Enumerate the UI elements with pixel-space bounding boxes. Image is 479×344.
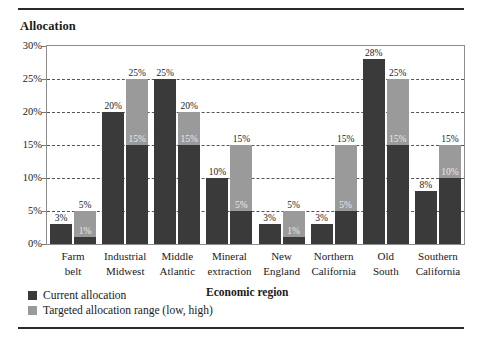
bar-value-label-current: 3% — [307, 213, 337, 223]
x-axis-tick-label-line: Southern — [404, 249, 472, 264]
bar-target-low[interactable] — [439, 178, 461, 244]
target-swatch-icon — [28, 306, 37, 315]
bar-group: 25%20%15% — [154, 46, 200, 244]
bar-value-label-target-high: 15% — [435, 134, 465, 144]
bar-value-label-target-low: 1% — [70, 226, 100, 236]
legend-item[interactable]: Targeted allocation range (low, high) — [28, 303, 213, 318]
legend-item[interactable]: Current allocation — [28, 288, 213, 303]
x-axis-title: Economic region — [206, 286, 289, 298]
bar-value-label-target-low: 15% — [383, 134, 413, 144]
bar-target-low[interactable] — [126, 145, 148, 244]
bar-group: 8%15%10% — [415, 46, 461, 244]
bar-value-label-target-high: 25% — [383, 68, 413, 78]
bar-value-label-target-low: 15% — [174, 134, 204, 144]
bar-value-label-current: 25% — [150, 68, 180, 78]
current-swatch-icon — [28, 291, 37, 300]
y-axis-tick-mark — [41, 211, 46, 212]
y-axis-tick-label: 30% — [8, 41, 42, 51]
bar-target-low[interactable] — [335, 211, 357, 244]
bar-value-label-current: 3% — [255, 213, 285, 223]
bar-target-low[interactable] — [387, 145, 409, 244]
bar-current-allocation[interactable] — [102, 112, 124, 244]
bar-group: 3%15%5% — [311, 46, 357, 244]
bar-series-group: 3%5%1%20%25%15%25%20%15%10%15%5%3%5%1%3%… — [47, 46, 464, 244]
bar-current-allocation[interactable] — [415, 191, 437, 244]
bar-current-allocation[interactable] — [363, 59, 385, 244]
bar-current-allocation[interactable] — [206, 178, 228, 244]
bar-value-label-target-low: 5% — [331, 200, 361, 210]
legend-item-label: Current allocation — [43, 289, 126, 302]
bar-value-label-current: 8% — [411, 180, 441, 190]
y-axis-tick-label: 20% — [8, 107, 42, 117]
legend: Current allocationTargeted allocation ra… — [28, 288, 213, 318]
y-axis-tick-label: 5% — [8, 206, 42, 216]
bar-value-label-target-low: 1% — [279, 226, 309, 236]
bar-current-allocation[interactable] — [311, 224, 333, 244]
x-axis-tick-label-line: California — [404, 264, 472, 279]
bar-current-allocation[interactable] — [154, 79, 176, 244]
bar-current-allocation[interactable] — [259, 224, 281, 244]
x-axis-tick-labels: FarmbeltIndustrialMidwestMiddleAtlanticM… — [47, 249, 464, 283]
bar-target-low[interactable] — [178, 145, 200, 244]
top-rule — [18, 8, 464, 10]
bar-value-label-current: 28% — [359, 48, 389, 58]
bar-current-allocation[interactable] — [50, 224, 72, 244]
bar-value-label-target-high: 5% — [279, 200, 309, 210]
bar-target-low[interactable] — [74, 237, 96, 244]
bar-value-label-target-high: 15% — [331, 134, 361, 144]
bar-target-low[interactable] — [230, 211, 252, 244]
bar-value-label-current: 20% — [98, 101, 128, 111]
y-axis-tick-label: 0% — [8, 239, 42, 249]
y-axis-tick-mark — [41, 79, 46, 80]
bar-value-label-target-high: 5% — [70, 200, 100, 210]
bar-value-label-target-low: 15% — [122, 134, 152, 144]
bar-value-label-target-high: 20% — [174, 101, 204, 111]
y-axis-tick-mark — [41, 112, 46, 113]
bar-group: 28%25%15% — [363, 46, 409, 244]
bar-value-label-target-high: 25% — [122, 68, 152, 78]
legend-item-label: Targeted allocation range (low, high) — [43, 304, 213, 317]
bar-target-low[interactable] — [283, 237, 305, 244]
bar-value-label-target-low: 5% — [226, 200, 256, 210]
figure-container: Allocation 0%5%10%15%20%25%30% 3%5%1%20%… — [0, 0, 479, 344]
bar-value-label-target-high: 15% — [226, 134, 256, 144]
bar-group: 3%5%1% — [50, 46, 96, 244]
y-axis-tick-label: 15% — [8, 140, 42, 150]
bar-group: 3%5%1% — [259, 46, 305, 244]
bar-value-label-current: 10% — [202, 167, 232, 177]
y-axis-tick-label: 10% — [8, 173, 42, 183]
y-axis-tick-mark — [41, 46, 46, 47]
bar-group: 20%25%15% — [102, 46, 148, 244]
bar-value-label-current: 3% — [46, 213, 76, 223]
page-title: Allocation — [20, 19, 76, 33]
bar-group: 10%15%5% — [206, 46, 252, 244]
x-axis-tick-label: SouthernCalifornia — [404, 249, 472, 278]
y-axis-tick-mark — [41, 145, 46, 146]
y-axis-tick-mark — [41, 178, 46, 179]
y-axis-tick-label: 25% — [8, 74, 42, 84]
bar-value-label-target-low: 10% — [435, 167, 465, 177]
y-axis-tick-mark — [41, 244, 46, 245]
bottom-rule — [18, 327, 464, 329]
